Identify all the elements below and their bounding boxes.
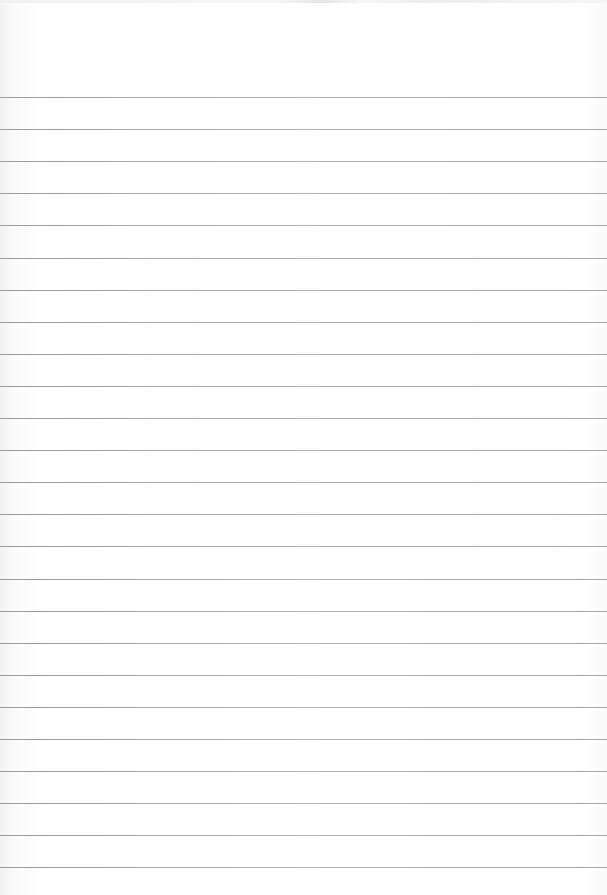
ruled-line bbox=[0, 322, 607, 323]
ruled-line bbox=[0, 161, 607, 162]
ruled-line bbox=[0, 611, 607, 612]
ruled-line bbox=[0, 482, 607, 483]
ruled-line bbox=[0, 129, 607, 130]
ruled-line bbox=[0, 546, 607, 547]
ruled-line bbox=[0, 739, 607, 740]
ruled-paper-sheet bbox=[0, 0, 607, 895]
ruled-line bbox=[0, 803, 607, 804]
ruled-line bbox=[0, 450, 607, 451]
ruled-line bbox=[0, 514, 607, 515]
ruled-line bbox=[0, 867, 607, 868]
ruled-line bbox=[0, 97, 607, 98]
ruled-line bbox=[0, 258, 607, 259]
ruled-line bbox=[0, 579, 607, 580]
ruled-line bbox=[0, 707, 607, 708]
ruled-line bbox=[0, 643, 607, 644]
ruled-line bbox=[0, 418, 607, 419]
ruled-line bbox=[0, 386, 607, 387]
ruled-line bbox=[0, 771, 607, 772]
ruled-line bbox=[0, 225, 607, 226]
ruled-line bbox=[0, 354, 607, 355]
ruled-line bbox=[0, 835, 607, 836]
paper-top-edge bbox=[0, 0, 607, 3]
ruled-line bbox=[0, 193, 607, 194]
ruled-line bbox=[0, 290, 607, 291]
ruled-line bbox=[0, 675, 607, 676]
